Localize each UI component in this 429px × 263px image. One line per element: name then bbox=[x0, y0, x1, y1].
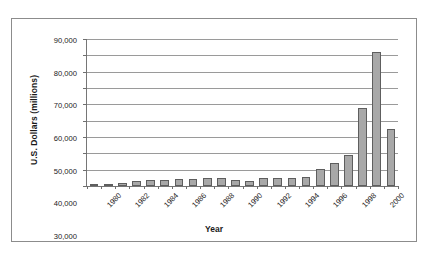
bar bbox=[330, 163, 339, 186]
x-axis-title: Year bbox=[12, 224, 416, 234]
x-tick-label: 1998 bbox=[359, 191, 377, 209]
x-tick-mark bbox=[398, 186, 399, 189]
x-tick-label: 1986 bbox=[190, 191, 208, 209]
x-tick-mark bbox=[384, 186, 385, 189]
bar bbox=[302, 177, 311, 186]
x-tick-label: 1980 bbox=[105, 191, 123, 209]
x-tick-mark bbox=[129, 186, 130, 189]
x-tick-mark bbox=[327, 186, 328, 189]
bar bbox=[273, 178, 282, 186]
y-axis-title: U.S. Dollars (millions) bbox=[29, 60, 39, 180]
bar bbox=[90, 184, 99, 186]
bar bbox=[344, 155, 353, 186]
y-tick-mark: 60,000 bbox=[83, 88, 87, 89]
bar bbox=[387, 129, 396, 186]
x-tick-mark bbox=[214, 186, 215, 189]
bar bbox=[231, 180, 240, 186]
x-tick-label: 1994 bbox=[303, 191, 321, 209]
x-tick-mark bbox=[257, 186, 258, 189]
y-tick-label: 40,000 bbox=[54, 199, 77, 208]
y-tick-mark: 40,000 bbox=[83, 121, 87, 122]
x-tick-mark bbox=[172, 186, 173, 189]
y-tick-mark: 10,000 bbox=[83, 170, 87, 171]
y-tick-mark: 80,000 bbox=[83, 55, 87, 56]
y-tick-label: 80,000 bbox=[54, 68, 77, 77]
x-tick-label: 2000 bbox=[388, 191, 406, 209]
bar bbox=[160, 180, 169, 186]
plot-area: 90,00080,00070,00060,00050,00040,00030,0… bbox=[86, 39, 398, 187]
y-tick-mark: 20,000 bbox=[83, 153, 87, 154]
x-tick-label: 1990 bbox=[246, 191, 264, 209]
x-tick-label: 1992 bbox=[275, 191, 293, 209]
bar bbox=[146, 180, 155, 186]
y-tick-label: 70,000 bbox=[54, 101, 77, 110]
bar bbox=[316, 169, 325, 186]
x-tick-mark bbox=[101, 186, 102, 189]
y-tick-mark: 90,000 bbox=[83, 39, 87, 40]
bar bbox=[189, 179, 198, 186]
x-tick-mark bbox=[200, 186, 201, 189]
x-tick-mark bbox=[356, 186, 357, 189]
bar bbox=[132, 181, 141, 186]
x-tick-mark bbox=[243, 186, 244, 189]
y-tick-label: 60,000 bbox=[54, 134, 77, 143]
y-tick-label: 90,000 bbox=[54, 36, 77, 45]
gridline bbox=[87, 121, 398, 122]
bar bbox=[104, 184, 113, 186]
x-tick-mark bbox=[370, 186, 371, 189]
x-tick-mark bbox=[186, 186, 187, 189]
x-tick-mark bbox=[115, 186, 116, 189]
x-tick-mark bbox=[299, 186, 300, 189]
bar bbox=[259, 178, 268, 186]
x-tick-label: 1996 bbox=[331, 191, 349, 209]
x-tick-mark bbox=[341, 186, 342, 189]
x-tick-mark bbox=[285, 186, 286, 189]
chart-figure: U.S. Dollars (millions) 90,00080,00070,0… bbox=[11, 18, 417, 242]
x-tick-label: 1982 bbox=[133, 191, 151, 209]
x-tick-mark bbox=[313, 186, 314, 189]
gridline bbox=[87, 72, 398, 73]
gridline bbox=[87, 137, 398, 138]
x-tick-mark bbox=[144, 186, 145, 189]
gridline bbox=[87, 104, 398, 105]
bar bbox=[217, 178, 226, 186]
x-tick-mark bbox=[228, 186, 229, 189]
x-tick-label: 1984 bbox=[162, 191, 180, 209]
y-tick-mark: 70,000 bbox=[83, 72, 87, 73]
bar bbox=[245, 181, 254, 186]
bar bbox=[358, 108, 367, 186]
gridline bbox=[87, 55, 398, 56]
x-tick-mark bbox=[158, 186, 159, 189]
x-tick-mark bbox=[87, 186, 88, 189]
gridline bbox=[87, 39, 398, 40]
x-tick-label: 1988 bbox=[218, 191, 236, 209]
y-tick-label: 50,000 bbox=[54, 166, 77, 175]
bar bbox=[118, 183, 127, 186]
y-tick-mark: 30,000 bbox=[83, 137, 87, 138]
bar bbox=[203, 178, 212, 186]
bar bbox=[372, 52, 381, 186]
bar bbox=[288, 178, 297, 186]
y-tick-mark: 50,000 bbox=[83, 104, 87, 105]
bar bbox=[175, 179, 184, 186]
gridline bbox=[87, 88, 398, 89]
x-tick-mark bbox=[271, 186, 272, 189]
